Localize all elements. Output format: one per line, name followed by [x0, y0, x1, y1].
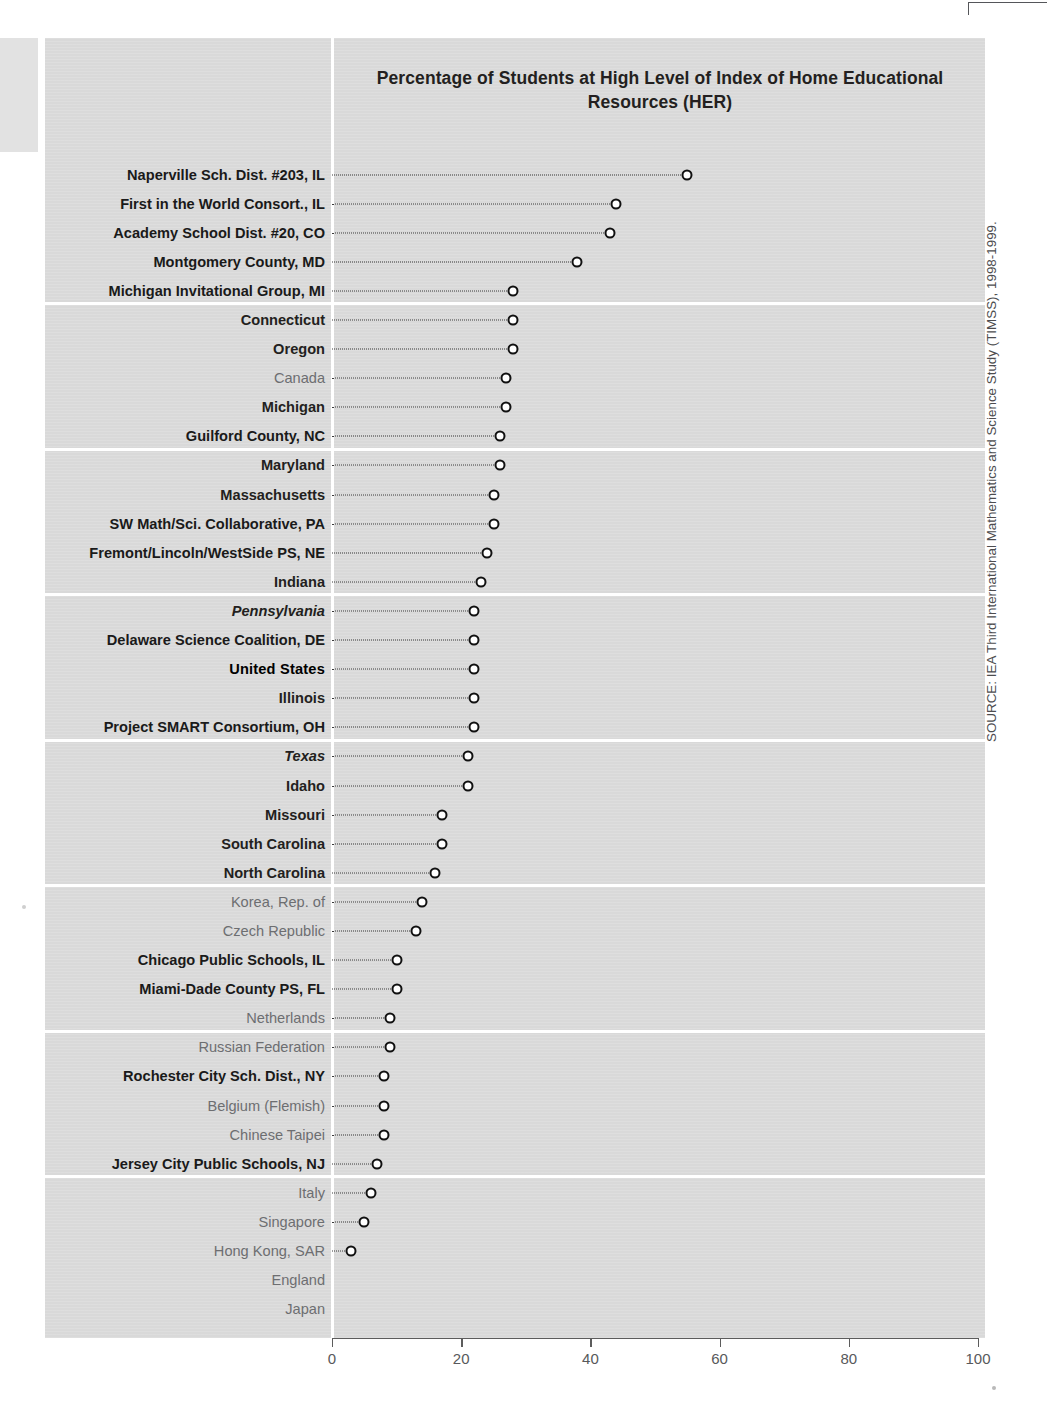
- row-label: Korea, Rep. of: [231, 894, 325, 910]
- leader-line: [332, 640, 468, 641]
- chart-row: Korea, Rep. of: [45, 887, 985, 916]
- x-axis-tick-label: 100: [965, 1350, 990, 1367]
- chart-row: Fremont/Lincoln/WestSide PS, NE: [45, 538, 985, 567]
- x-axis-line: [332, 1338, 978, 1339]
- leader-line: [332, 203, 610, 204]
- row-label: Czech Republic: [223, 923, 325, 939]
- leader-line: [332, 552, 481, 553]
- leader-line: [332, 1134, 378, 1135]
- dot-plot-rows: Naperville Sch. Dist. #203, ILFirst in t…: [45, 160, 985, 1324]
- chart-row: South Carolina: [45, 829, 985, 858]
- data-point-marker: [488, 518, 499, 529]
- data-point-marker: [469, 664, 480, 675]
- row-label: Michigan Invitational Group, MI: [109, 283, 325, 299]
- data-point-marker: [501, 373, 512, 384]
- data-point-marker: [436, 838, 447, 849]
- x-axis-tick: [590, 1338, 591, 1347]
- data-point-marker: [469, 693, 480, 704]
- leader-line: [332, 261, 571, 262]
- chart-row: Jersey City Public Schools, NJ: [45, 1149, 985, 1178]
- chart-row: Guilford County, NC: [45, 422, 985, 451]
- chart-panel: Percentage of Students at High Level of …: [45, 38, 985, 1338]
- data-point-marker: [494, 431, 505, 442]
- leader-line: [332, 872, 429, 873]
- chart-row: United States: [45, 655, 985, 684]
- data-point-marker: [378, 1071, 389, 1082]
- chart-row: First in the World Consort., IL: [45, 189, 985, 218]
- data-point-marker: [494, 460, 505, 471]
- leader-line: [332, 1018, 384, 1019]
- chart-row: Rochester City Sch. Dist., NY: [45, 1062, 985, 1091]
- data-point-marker: [391, 984, 402, 995]
- chart-row: SW Math/Sci. Collaborative, PA: [45, 509, 985, 538]
- row-label: Massachusetts: [220, 487, 325, 503]
- page-speck-left: [22, 905, 26, 909]
- row-label: Netherlands: [246, 1010, 325, 1026]
- chart-row: Chinese Taipei: [45, 1120, 985, 1149]
- leader-line: [332, 1105, 378, 1106]
- leader-line: [332, 174, 681, 175]
- data-point-marker: [482, 547, 493, 558]
- row-label: Chinese Taipei: [230, 1127, 325, 1143]
- data-point-marker: [507, 344, 518, 355]
- chart-row: Connecticut: [45, 305, 985, 334]
- x-axis-tick-label: 20: [453, 1350, 470, 1367]
- leader-line: [332, 756, 462, 757]
- chart-row: Project SMART Consortium, OH: [45, 713, 985, 742]
- chart-row: Russian Federation: [45, 1033, 985, 1062]
- x-axis-tick: [461, 1338, 462, 1347]
- data-point-marker: [378, 1129, 389, 1140]
- data-point-marker: [604, 227, 615, 238]
- leader-line: [332, 727, 468, 728]
- data-point-marker: [372, 1158, 383, 1169]
- chart-row: Michigan: [45, 393, 985, 422]
- data-point-marker: [469, 605, 480, 616]
- leader-line: [332, 320, 507, 321]
- chart-row: Oregon: [45, 335, 985, 364]
- chart-row: Belgium (Flemish): [45, 1091, 985, 1120]
- data-point-marker: [507, 285, 518, 296]
- chart-row: Miami-Dade County PS, FL: [45, 975, 985, 1004]
- chart-row: Delaware Science Coalition, DE: [45, 626, 985, 655]
- leader-line: [332, 1221, 358, 1222]
- chart-row: Indiana: [45, 567, 985, 596]
- row-label: Montgomery County, MD: [153, 254, 325, 270]
- chart-row: Singapore: [45, 1207, 985, 1236]
- data-point-marker: [507, 315, 518, 326]
- row-label: Naperville Sch. Dist. #203, IL: [127, 167, 325, 183]
- leader-line: [332, 698, 468, 699]
- chart-row: Italy: [45, 1178, 985, 1207]
- row-label: Pennsylvania: [232, 603, 325, 619]
- chart-row: Japan: [45, 1295, 985, 1324]
- row-label: Singapore: [258, 1214, 325, 1230]
- crop-mark-top-right: [968, 2, 1047, 15]
- data-point-marker: [611, 198, 622, 209]
- chart-row: Idaho: [45, 771, 985, 800]
- leader-line: [332, 349, 507, 350]
- leader-line: [332, 232, 604, 233]
- leader-line: [332, 1192, 365, 1193]
- data-point-marker: [682, 169, 693, 180]
- chart-row: Illinois: [45, 684, 985, 713]
- row-label: Connecticut: [241, 312, 325, 328]
- data-point-marker: [378, 1100, 389, 1111]
- source-note: SOURCE: IEA Third International Mathemat…: [984, 182, 999, 742]
- row-label: Academy School Dist. #20, CO: [113, 225, 325, 241]
- chart-row: North Carolina: [45, 858, 985, 887]
- data-point-marker: [501, 402, 512, 413]
- data-point-marker: [346, 1246, 357, 1257]
- data-point-marker: [430, 867, 441, 878]
- chart-row: Pennsylvania: [45, 596, 985, 625]
- leader-line: [332, 407, 500, 408]
- leader-line: [332, 814, 436, 815]
- chart-row: Canada: [45, 364, 985, 393]
- chart-row: Maryland: [45, 451, 985, 480]
- row-label: First in the World Consort., IL: [120, 196, 325, 212]
- row-label: South Carolina: [221, 836, 325, 852]
- leader-line: [332, 290, 507, 291]
- chart-row: Montgomery County, MD: [45, 247, 985, 276]
- data-point-marker: [391, 955, 402, 966]
- row-label: Texas: [284, 748, 325, 764]
- leader-line: [332, 785, 462, 786]
- chart-row: Hong Kong, SAR: [45, 1236, 985, 1265]
